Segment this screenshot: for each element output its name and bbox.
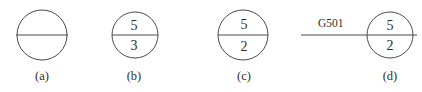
circle-symbol-c (217, 0, 271, 66)
circle-symbol-b (111, 0, 161, 66)
circle-top-value-b: 5 (109, 19, 159, 33)
circle-top-value-c: 5 (217, 18, 271, 32)
figure-item-d: G501 5 2 (d) (300, 0, 418, 92)
circle-bottom-value-d: 2 (364, 39, 416, 53)
circle-symbol-d (300, 0, 418, 66)
figure-caption-c: (c) (217, 70, 271, 83)
circle-symbol-a (16, 0, 70, 66)
figure-item-a: (a) (16, 0, 70, 92)
feeder-wire-label: G501 (318, 18, 344, 30)
figure-item-c: 5 2 (c) (217, 0, 271, 92)
circle-top-value-d: 5 (364, 19, 416, 33)
circle-bottom-value-c: 2 (217, 40, 271, 54)
figure-caption-b: (b) (109, 70, 159, 83)
figure-caption-d: (d) (364, 70, 416, 83)
figure-canvas: (a) 5 3 (b) 5 2 (c) G501 5 2 (d) (0, 0, 422, 92)
circle-bottom-value-b: 3 (109, 39, 159, 53)
figure-item-b: 5 3 (b) (111, 0, 161, 92)
figure-caption-a: (a) (15, 70, 69, 83)
